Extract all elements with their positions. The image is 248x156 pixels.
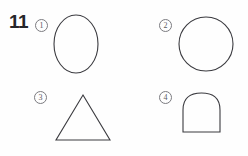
ellipse-icon (52, 14, 102, 76)
dome-icon (178, 88, 226, 138)
option-marker-2[interactable]: 2 (159, 19, 172, 32)
circle-icon (178, 16, 236, 74)
option-marker-4[interactable]: 4 (159, 91, 172, 104)
option-marker-3[interactable]: 3 (34, 91, 47, 104)
triangle-icon (52, 90, 114, 144)
worksheet-page: 11 1 2 3 4 (0, 0, 248, 156)
option-marker-1[interactable]: 1 (35, 19, 48, 32)
problem-number: 11 (9, 12, 28, 31)
